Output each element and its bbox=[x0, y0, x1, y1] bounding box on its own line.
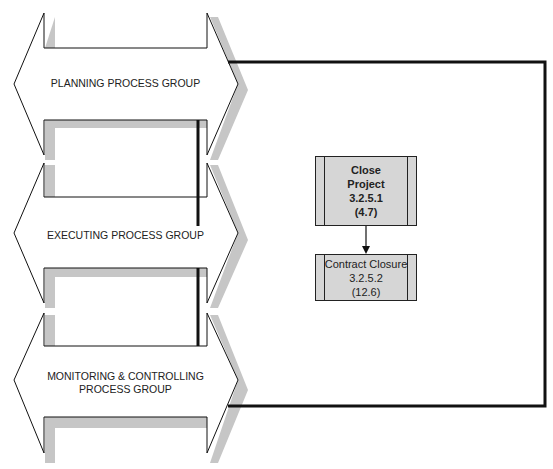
closing-group-frame bbox=[228, 62, 545, 406]
process-ref: (4.7) bbox=[355, 205, 378, 219]
executing-label: EXECUTING PROCESS GROUP bbox=[44, 229, 207, 242]
process-section: 3.2.5.2 bbox=[349, 271, 383, 285]
monitoring-label-line2: PROCESS GROUP bbox=[44, 383, 207, 396]
process-name: Contract Closure bbox=[325, 257, 408, 271]
arrowhead-icon bbox=[362, 246, 370, 254]
monitoring-label: MONITORING & CONTROLLING PROCESS GROUP bbox=[44, 370, 207, 396]
process-section: 3.2.5.1 bbox=[349, 191, 383, 205]
contract-closure-box[interactable]: Contract Closure 3.2.5.2 (12.6) bbox=[315, 254, 417, 301]
process-ref: (12.6) bbox=[352, 285, 381, 299]
process-name-line2: Project bbox=[347, 177, 384, 191]
close-project-box[interactable]: Close Project 3.2.5.1 (4.7) bbox=[315, 156, 417, 226]
process-name-line1: Close bbox=[351, 163, 381, 177]
monitoring-label-line1: MONITORING & CONTROLLING bbox=[44, 370, 207, 383]
planning-label: PLANNING PROCESS GROUP bbox=[44, 77, 207, 90]
